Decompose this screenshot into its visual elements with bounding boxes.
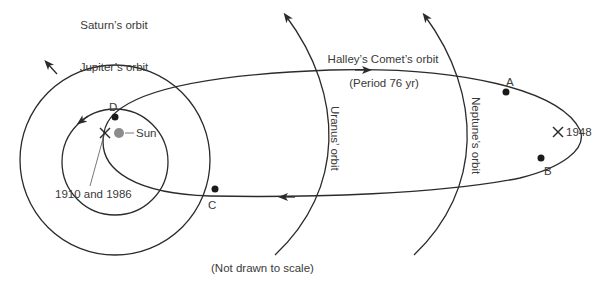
sun-icon: [114, 128, 124, 138]
jupiter-orbit-label: Jupiter’s orbit: [80, 61, 149, 73]
point-a-label: A: [506, 76, 514, 88]
point-b-label: B: [544, 165, 552, 177]
perihelion-label: 1910 and 1986: [55, 188, 132, 200]
point-d-label: D: [109, 101, 117, 113]
halley-period-label: (Period 76 yr): [349, 77, 419, 89]
halley-comet-orbit-diagram: Saturn’s orbit Jupiter’s orbit Sun Uranu…: [0, 0, 612, 288]
halley-comet-orbit: [103, 70, 581, 197]
saturn-direction-arrow: [47, 63, 57, 74]
halley-orbit-label: Halley’s Comet’s orbit: [328, 53, 440, 65]
uranus-orbit-label: Uranus’ orbit: [329, 106, 341, 172]
point-a-marker: [503, 89, 510, 96]
aphelion-marker-icon: [553, 127, 563, 137]
saturn-orbit: [20, 63, 210, 255]
saturn-orbit-label: Saturn’s orbit: [80, 19, 148, 31]
sun-label: Sun: [136, 127, 156, 139]
scale-note: (Not drawn to scale): [211, 262, 314, 274]
jupiter-direction-arrow: [80, 116, 88, 122]
neptune-orbit: [414, 16, 467, 255]
uranus-orbit: [275, 16, 329, 255]
neptune-orbit-label: Neptune’s orbit: [470, 97, 482, 175]
point-c-marker: [212, 186, 219, 193]
point-c-label: C: [208, 199, 216, 211]
point-b-marker: [538, 155, 545, 162]
point-d-marker: [112, 114, 119, 121]
aphelion-label: 1948: [566, 126, 592, 138]
